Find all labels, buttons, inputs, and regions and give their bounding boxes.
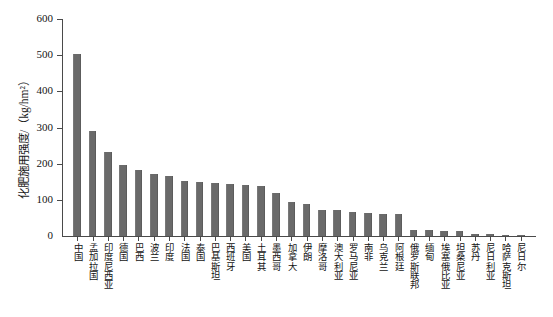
bar	[303, 204, 311, 236]
x-axis-tick-mark	[215, 237, 216, 241]
x-axis-tick-mark	[93, 237, 94, 241]
y-axis-tick-label: 300	[19, 122, 53, 133]
x-axis-tick-mark	[230, 237, 231, 241]
x-axis-category-label: 泰国	[195, 243, 205, 262]
bar	[272, 193, 280, 236]
bar	[104, 152, 112, 236]
bar	[456, 231, 464, 236]
bar	[226, 184, 234, 236]
bar	[425, 230, 433, 236]
x-axis-tick-mark	[475, 237, 476, 241]
bar-chart: 化肥施用强度/（kg/hm²） 0100200300400500600 中国孟加…	[0, 0, 553, 317]
plot-area	[62, 19, 536, 236]
x-axis-category-label: 阿根廷	[393, 243, 403, 271]
x-axis-tick-mark	[184, 237, 185, 241]
bar	[318, 210, 326, 236]
bar	[119, 165, 127, 236]
x-axis-tick-mark	[337, 237, 338, 241]
x-axis-category-label: 印度	[164, 243, 174, 262]
x-axis-line	[62, 236, 536, 237]
x-axis-category-label: 西班牙	[225, 243, 235, 271]
x-axis-tick-mark	[353, 237, 354, 241]
bar	[364, 213, 372, 237]
y-axis-tick-label: 100	[19, 194, 53, 205]
bar	[333, 210, 341, 236]
y-axis-tick-label: 200	[19, 158, 53, 169]
x-axis-category-label: 尼日利亚	[485, 243, 495, 280]
y-axis-tick-label: 600	[19, 13, 53, 24]
x-axis-tick-mark	[398, 237, 399, 241]
x-axis-tick-mark	[245, 237, 246, 241]
x-axis-category-label: 伊朗	[302, 243, 312, 262]
bar	[288, 202, 296, 236]
bar	[471, 234, 479, 236]
bar	[89, 131, 97, 236]
y-axis-tick-label: 0	[19, 230, 53, 241]
x-axis-tick-mark	[490, 237, 491, 241]
x-axis-category-label: 波兰	[149, 243, 159, 262]
bar	[181, 181, 189, 236]
x-axis-tick-mark	[276, 237, 277, 241]
x-axis-tick-mark	[444, 237, 445, 241]
x-axis-category-label: 埃塞俄比亚	[439, 243, 449, 290]
x-axis-tick-mark	[414, 237, 415, 241]
x-axis-category-label: 乌克兰	[378, 243, 388, 271]
bar	[150, 174, 158, 236]
x-axis-tick-mark	[521, 237, 522, 241]
x-axis-tick-mark	[261, 237, 262, 241]
bar	[502, 235, 510, 236]
x-axis-category-label: 苏丹	[470, 243, 480, 262]
bar	[349, 212, 357, 236]
x-axis-tick-mark	[108, 237, 109, 241]
x-axis-category-label: 坦桑尼亚	[455, 243, 465, 280]
x-axis-category-label: 土耳其	[256, 243, 266, 271]
x-axis-category-label: 巴西	[133, 243, 143, 262]
x-axis-category-label: 巴基斯坦	[210, 243, 220, 280]
x-axis-tick-mark	[154, 237, 155, 241]
x-axis-tick-mark	[169, 237, 170, 241]
x-axis-category-label: 加拿大	[286, 243, 296, 271]
y-axis-tick-label: 400	[19, 85, 53, 96]
x-axis-category-label: 中国	[72, 243, 82, 262]
bar	[257, 186, 265, 236]
x-axis-tick-mark	[138, 237, 139, 241]
bar	[517, 235, 525, 236]
x-axis-category-label: 德国	[118, 243, 128, 262]
bar	[211, 183, 219, 236]
x-axis-category-label: 哈萨克斯坦	[500, 243, 510, 290]
x-axis-tick-mark	[429, 237, 430, 241]
bar	[242, 185, 250, 236]
x-axis-category-label: 印度尼西亚	[103, 243, 113, 290]
x-axis-tick-mark	[77, 237, 78, 241]
x-axis-category-label: 孟加拉国	[88, 243, 98, 280]
bar	[440, 231, 448, 236]
x-axis-tick-mark	[291, 237, 292, 241]
x-axis-category-label: 美国	[240, 243, 250, 262]
bar	[379, 214, 387, 236]
x-axis-tick-mark	[460, 237, 461, 241]
x-axis-category-label: 尼日尔	[516, 243, 526, 271]
x-axis-category-label: 墨西哥	[271, 243, 281, 271]
x-axis-tick-mark	[307, 237, 308, 241]
bar	[165, 176, 173, 236]
x-axis-tick-mark	[123, 237, 124, 241]
bar	[73, 54, 81, 236]
x-axis-category-label: 缅甸	[424, 243, 434, 262]
x-axis-tick-mark	[505, 237, 506, 241]
bar	[410, 230, 418, 236]
bar	[196, 182, 204, 236]
x-axis-category-label: 罗马尼亚	[348, 243, 358, 280]
x-axis-tick-mark	[383, 237, 384, 241]
x-axis-category-label: 澳大利亚	[332, 243, 342, 280]
y-axis-tick-label: 500	[19, 49, 53, 60]
x-axis-category-label: 南非	[363, 243, 373, 262]
bar	[135, 170, 143, 236]
bar	[486, 234, 494, 236]
x-axis-category-label: 摩洛哥	[317, 243, 327, 271]
x-axis-tick-mark	[368, 237, 369, 241]
x-axis-category-label: 俄罗斯联邦	[409, 243, 419, 290]
x-axis-category-label: 法国	[179, 243, 189, 262]
x-axis-tick-mark	[200, 237, 201, 241]
bar	[395, 214, 403, 236]
x-axis-tick-mark	[322, 237, 323, 241]
